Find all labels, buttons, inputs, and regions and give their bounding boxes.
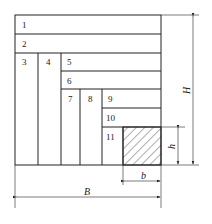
dimension-H-label: H <box>181 86 192 95</box>
region-5-label: 5 <box>67 57 72 67</box>
dimension-lines <box>15 15 199 208</box>
region-11-label: 11 <box>106 132 115 142</box>
dimension-h-label: h <box>166 144 177 149</box>
dimension-b-label: b <box>141 170 146 181</box>
layout-diagram: 1 2 3 4 5 6 7 8 9 10 11 H h b B <box>0 0 212 224</box>
region-9-label: 9 <box>108 94 113 104</box>
region-7-label: 7 <box>68 94 73 104</box>
region-8-label: 8 <box>88 94 93 104</box>
dimension-B-label: B <box>84 186 90 197</box>
region-10-label: 10 <box>106 113 116 123</box>
region-1-label: 1 <box>22 20 27 30</box>
region-3-label: 3 <box>22 57 27 67</box>
diagram-canvas: 1 2 3 4 5 6 7 8 9 10 11 H h b B <box>0 0 212 224</box>
region-4-label: 4 <box>46 57 51 67</box>
region-2-label: 2 <box>22 39 27 49</box>
hatched-remaining-area <box>123 127 161 165</box>
region-6-label: 6 <box>67 76 72 86</box>
